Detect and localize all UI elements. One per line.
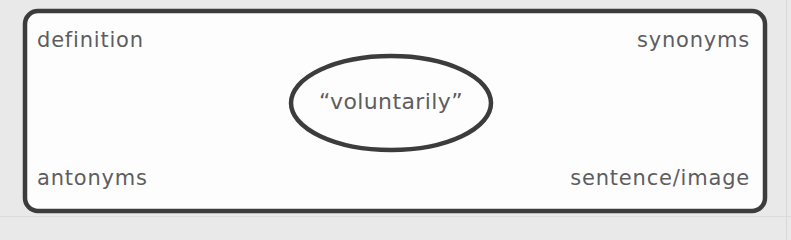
- scan-edge-right: [786, 0, 787, 240]
- vocabulary-organizer: definition synonyms antonyms sentence/im…: [22, 8, 768, 214]
- page-canvas: definition synonyms antonyms sentence/im…: [0, 0, 791, 240]
- scan-edge-bottom: [0, 216, 791, 217]
- quadrant-label-sentence-image: sentence/image: [570, 168, 750, 189]
- quadrant-label-synonyms: synonyms: [637, 30, 750, 51]
- quadrant-label-definition: definition: [37, 30, 144, 51]
- quadrant-label-antonyms: antonyms: [37, 168, 148, 189]
- center-ellipse: [291, 56, 491, 150]
